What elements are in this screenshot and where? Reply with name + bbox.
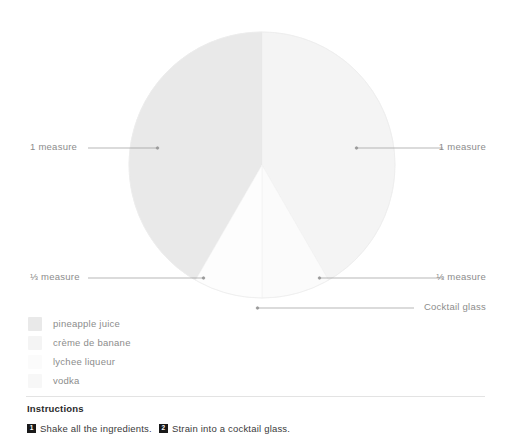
callout-label-right-top: 1 measure [439,142,486,152]
legend-swatch-icon [28,374,42,388]
leader-dot-right-top [355,147,358,150]
legend-item-label: vodka [53,376,80,386]
legend-item[interactable]: vodka [28,371,248,390]
callout-label-left-bottom: ⅓ measure [30,272,80,282]
chart-legend: pineapple juice crème de banane lychee l… [28,314,248,390]
legend-item[interactable]: crème de banane [28,333,248,352]
leader-dot-left-top [156,147,159,150]
leader-dot-glass [256,307,259,310]
cocktail-pie-chart: 1 measure ⅓ measure 1 measure ⅓ measure … [0,0,511,310]
callout-label-right-bottom: ⅓ measure [436,272,486,282]
legend-item[interactable]: pineapple juice [28,314,248,333]
leader-dot-right-bottom [318,277,321,280]
instructions-divider [26,396,485,397]
leader-dot-left-bottom [202,277,205,280]
pie-chart-svg [0,0,511,310]
instruction-step: 1 Shake all the ingredients. [27,423,152,434]
legend-swatch-icon [28,317,42,331]
callout-label-left-top: 1 measure [30,142,77,152]
legend-item-label: lychee liqueur [53,357,115,367]
step-text: Shake all the ingredients. [40,423,152,434]
step-text: Strain into a cocktail glass. [172,423,290,434]
legend-swatch-icon [28,355,42,369]
legend-item-label: pineapple juice [53,319,120,329]
instructions-steps: 1 Shake all the ingredients. 2 Strain in… [27,423,290,434]
legend-item[interactable]: lychee liqueur [28,352,248,371]
instruction-step: 2 Strain into a cocktail glass. [159,423,290,434]
legend-swatch-icon [28,336,42,350]
step-number-badge: 1 [27,424,36,433]
instructions-heading: Instructions [27,403,84,414]
step-number-badge: 2 [159,424,168,433]
legend-item-label: crème de banane [53,338,131,348]
callout-label-cocktail-glass: Cocktail glass [424,302,486,312]
